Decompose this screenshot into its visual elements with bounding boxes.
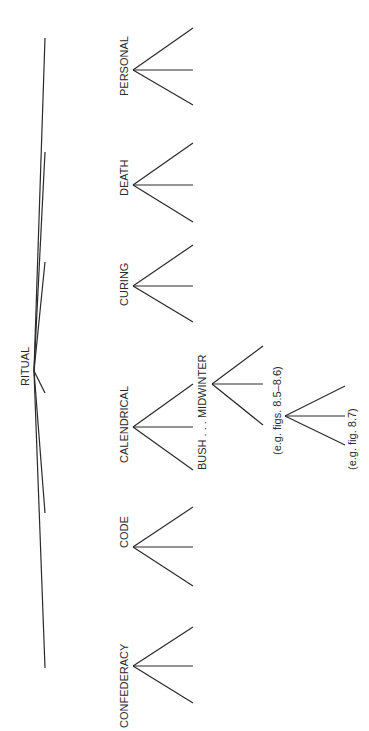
root-branch-line	[34, 371, 45, 513]
subfan-line	[212, 346, 263, 384]
fan-line	[133, 627, 193, 666]
fan-line	[133, 245, 193, 286]
root-branch-line	[34, 152, 45, 371]
node-confederacy: CONFEDERACY	[119, 644, 130, 728]
node-example-figs-8-5-8-6: (e.g. figs. 8.5–8.6)	[272, 366, 283, 455]
fan-line	[133, 28, 193, 70]
fan-line	[133, 384, 193, 427]
node-bush-midwinter: BUSH . . . MIDWINTER	[197, 355, 208, 471]
fan-line	[133, 427, 193, 470]
node-death: DEATH	[119, 160, 130, 196]
fan-line	[133, 185, 193, 222]
fan-line	[133, 70, 193, 105]
node-ritual: RITUAL	[20, 347, 31, 386]
subfan-line	[212, 384, 263, 425]
node-calendrical: CALENDRICAL	[119, 386, 130, 463]
fan-line	[133, 143, 193, 185]
root-branch-line	[34, 371, 45, 668]
ritual-tree-diagram: RITUAL PERSONAL DEATH CURING CALENDRICAL…	[0, 0, 369, 731]
subfan-line	[285, 386, 345, 416]
subfan-line	[285, 416, 345, 445]
fan-line	[133, 547, 193, 586]
fan-line	[133, 286, 193, 322]
fan-line	[133, 666, 193, 703]
node-personal: PERSONAL	[119, 36, 130, 96]
tree-lines	[0, 0, 369, 731]
node-curing: CURING	[119, 263, 130, 306]
node-example-fig-8-7: (e.g. fig. 8.7)	[347, 408, 358, 470]
fan-line	[133, 507, 193, 547]
node-code: CODE	[119, 516, 130, 548]
